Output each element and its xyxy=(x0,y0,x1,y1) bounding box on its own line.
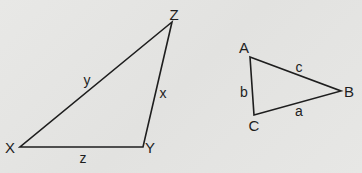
triangle-xyz: X Y Z y x z xyxy=(5,6,179,166)
vertex-label-y: Y xyxy=(145,139,155,156)
vertex-label-x: X xyxy=(5,139,15,156)
side-label-b: b xyxy=(240,84,248,100)
vertex-label-b: B xyxy=(344,83,354,100)
triangle-xyz-shape xyxy=(20,22,172,147)
triangles-diagram: X Y Z y x z A B C c b a xyxy=(0,0,362,173)
triangle-abc: A B C c b a xyxy=(239,39,354,134)
side-label-z: z xyxy=(80,150,87,166)
side-label-c: c xyxy=(296,59,303,75)
vertex-label-z: Z xyxy=(169,6,178,23)
vertex-label-c: C xyxy=(249,117,260,134)
vertex-label-a: A xyxy=(239,39,249,56)
side-label-a: a xyxy=(295,103,303,119)
side-label-x: x xyxy=(160,85,167,101)
side-label-y: y xyxy=(84,72,91,88)
diagram-canvas: X Y Z y x z A B C c b a xyxy=(0,0,362,173)
